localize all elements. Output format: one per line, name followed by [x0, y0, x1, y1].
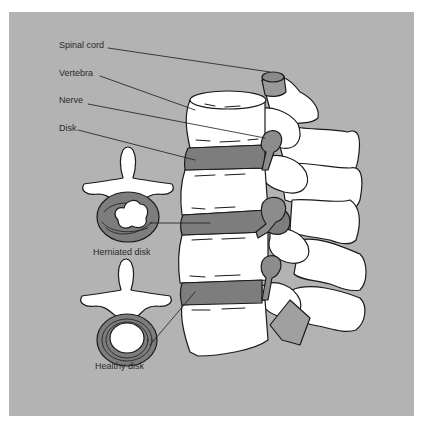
spine-diagram: [0, 0, 422, 425]
label-nerve: Nerve: [59, 95, 83, 105]
healthy-disk-crosssection: [81, 259, 171, 366]
herniated-disk-crosssection: [83, 147, 173, 242]
label-herniated-disk: Herniated disk: [93, 247, 151, 257]
disk-lower: [181, 280, 263, 305]
disk-upper: [185, 145, 265, 170]
label-spinal-cord: Spinal cord: [59, 40, 104, 50]
label-healthy-disk: Healthy disk: [95, 361, 144, 371]
label-vertebra: Vertebra: [59, 68, 93, 78]
label-disk: Disk: [59, 123, 77, 133]
spinal-cord: [262, 72, 286, 96]
